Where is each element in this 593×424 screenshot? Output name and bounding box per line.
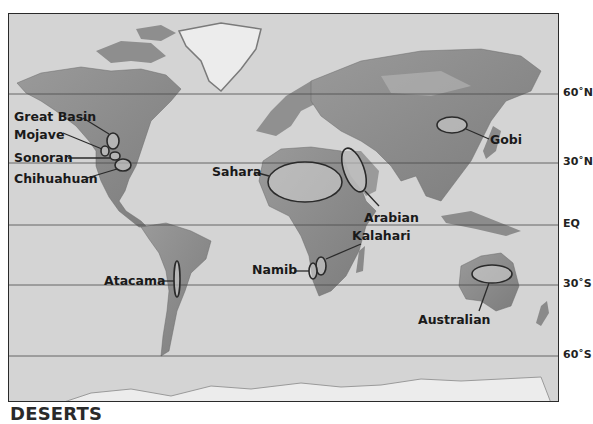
sahara-ellipse xyxy=(268,162,342,202)
lat-label-60n: 60˚N xyxy=(563,86,593,99)
map-graphic xyxy=(9,14,559,402)
great-basin-ellipse xyxy=(107,133,119,149)
label-gobi: Gobi xyxy=(490,132,522,147)
label-kalahari: Kalahari xyxy=(352,228,411,243)
label-australian: Australian xyxy=(418,312,491,327)
label-namib: Namib xyxy=(252,262,297,277)
sonoran-ellipse xyxy=(110,152,120,160)
label-great-basin: Great Basin xyxy=(14,109,96,124)
namib-ellipse xyxy=(309,263,317,279)
label-atacama: Atacama xyxy=(104,273,165,288)
label-chihuahuan: Chihuahuan xyxy=(14,171,98,186)
label-mojave: Mojave xyxy=(14,127,64,142)
label-sahara: Sahara xyxy=(212,164,261,179)
australian-ellipse xyxy=(472,265,512,283)
world-map xyxy=(8,13,559,402)
atacama-ellipse xyxy=(174,261,180,297)
chihuahuan-ellipse xyxy=(115,159,131,171)
lat-label-60s: 60˚S xyxy=(563,348,592,361)
gobi-ellipse xyxy=(437,117,467,133)
lat-label-30n: 30˚N xyxy=(563,155,593,168)
mojave-ellipse xyxy=(101,146,109,156)
lat-label-30s: 30˚S xyxy=(563,277,592,290)
label-sonoran: Sonoran xyxy=(14,150,73,165)
map-title: DESERTS xyxy=(10,403,102,424)
label-arabian: Arabian xyxy=(364,210,419,225)
lat-label-eq: EQ xyxy=(563,217,580,230)
